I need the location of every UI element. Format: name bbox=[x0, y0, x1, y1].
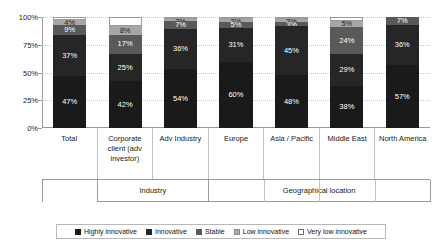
bar-segment[interactable]: 36% bbox=[164, 29, 197, 69]
legend-item[interactable]: Innovative bbox=[146, 228, 187, 235]
bar-segment-label: 31% bbox=[228, 41, 243, 49]
bar-segment[interactable]: 45% bbox=[275, 26, 308, 76]
legend-item[interactable]: Highly innovative bbox=[75, 228, 137, 235]
bar-segment[interactable]: 47% bbox=[53, 76, 86, 128]
bar-segment[interactable]: 9% bbox=[53, 25, 86, 35]
bar-segment[interactable] bbox=[109, 17, 142, 26]
bar-segment-label: 7% bbox=[175, 21, 186, 29]
x-axis-category-label: Total bbox=[44, 134, 95, 179]
bar-segment-label: 60% bbox=[228, 91, 243, 99]
y-axis-tick-mark bbox=[38, 100, 42, 101]
group-divider bbox=[97, 180, 98, 202]
bar-segment[interactable]: 60% bbox=[219, 62, 252, 128]
x-axis-categories: TotalCorporate client (adv investor)Adv … bbox=[42, 128, 430, 180]
legend-item[interactable]: Low innovative bbox=[234, 228, 289, 235]
legend-label: Innovative bbox=[155, 228, 187, 235]
legend-swatch-icon bbox=[298, 229, 304, 235]
stacked-bar[interactable]: 8%17%25%42% bbox=[109, 17, 142, 128]
x-axis-groups: IndustryGeographical location bbox=[42, 180, 430, 202]
bar-segment-label: 9% bbox=[64, 26, 75, 34]
group-divider bbox=[42, 180, 43, 202]
y-axis: 0%25%50%75%100% bbox=[0, 17, 38, 128]
x-axis-category-label: Europe bbox=[210, 134, 261, 179]
chart-legend: Highly innovativeInnovativeStableLow inn… bbox=[56, 224, 386, 239]
group-tick bbox=[264, 180, 265, 202]
stacked-bar[interactable]: 3%3%45%48% bbox=[275, 17, 308, 128]
group-divider bbox=[430, 180, 431, 202]
x-axis-category-label: Corporate client (adv investor) bbox=[99, 134, 150, 179]
bar-segment-label: 36% bbox=[395, 41, 410, 49]
bar-segment[interactable]: 7% bbox=[386, 17, 419, 25]
y-axis-tick-mark bbox=[38, 73, 42, 74]
y-axis-tick-label: 0% bbox=[27, 124, 38, 133]
group-tick bbox=[319, 180, 320, 202]
stacked-bar-chart: 0%25%50%75%100% 4%9%37%47%8%17%25%42%2%7… bbox=[0, 0, 441, 246]
legend-label: Very low innovative bbox=[307, 228, 367, 235]
legend-swatch-icon bbox=[75, 229, 81, 235]
bar-segment-label: 47% bbox=[62, 98, 77, 106]
bar-segment[interactable]: 24% bbox=[330, 27, 363, 54]
bar-segment[interactable]: 48% bbox=[275, 75, 308, 128]
bar-segment[interactable]: 31% bbox=[219, 28, 252, 62]
bar-slot: 5%24%29%38% bbox=[319, 17, 374, 128]
bar-segment-label: 24% bbox=[339, 37, 354, 45]
bar-segment[interactable]: 8% bbox=[109, 26, 142, 35]
bar-segment-label: 36% bbox=[173, 45, 188, 53]
group-tick bbox=[375, 180, 376, 202]
x-axis-category: Total bbox=[42, 128, 97, 179]
bar-segment[interactable]: 37% bbox=[53, 35, 86, 76]
x-axis-category: Corporate client (adv investor) bbox=[97, 128, 153, 179]
stacked-bar[interactable]: 7%36%57% bbox=[386, 17, 419, 128]
stacked-bar[interactable]: 2%7%36%54% bbox=[164, 17, 197, 128]
bar-segment[interactable]: 7% bbox=[164, 21, 197, 29]
x-axis-category: North America bbox=[374, 128, 430, 179]
x-axis-category: Asia / Pacific bbox=[263, 128, 319, 179]
bar-segment-label: 54% bbox=[173, 95, 188, 103]
x-axis-category-label: Middle East bbox=[322, 134, 373, 179]
bar-segment[interactable]: 36% bbox=[386, 25, 419, 65]
x-axis-group-label: Industry bbox=[140, 186, 167, 195]
bar-slot: 8%17%25%42% bbox=[97, 17, 152, 128]
x-axis-group: Industry bbox=[97, 180, 208, 202]
legend-label: Highly innovative bbox=[84, 228, 137, 235]
y-axis-tick-label: 25% bbox=[23, 96, 38, 105]
y-axis-tick-mark bbox=[38, 45, 42, 46]
bar-slot: 7%36%57% bbox=[375, 17, 430, 128]
bar-segment[interactable]: 57% bbox=[386, 65, 419, 128]
bar-segment-label: 57% bbox=[395, 93, 410, 101]
stacked-bar[interactable]: 5%24%29%38% bbox=[330, 17, 363, 128]
y-axis-tick-mark bbox=[38, 128, 42, 129]
x-axis-category-label: Asia / Pacific bbox=[266, 134, 317, 179]
y-axis-tick-label: 50% bbox=[23, 68, 38, 77]
bar-segment[interactable]: 42% bbox=[109, 81, 142, 128]
bar-slot: 4%9%37%47% bbox=[42, 17, 97, 128]
bar-segment[interactable]: 54% bbox=[164, 69, 197, 128]
bar-segment[interactable]: 25% bbox=[109, 54, 142, 82]
bar-segment-label: 37% bbox=[62, 52, 77, 60]
y-axis-tick-label: 75% bbox=[23, 40, 38, 49]
stacked-bar[interactable]: 3%5%31%60% bbox=[219, 17, 252, 128]
y-axis-tick-label: 100% bbox=[19, 13, 38, 22]
x-axis-category-label: North America bbox=[377, 134, 428, 179]
bar-segment[interactable]: 17% bbox=[109, 35, 142, 54]
bar-segment-label: 45% bbox=[284, 47, 299, 55]
legend-item[interactable]: Stable bbox=[196, 228, 225, 235]
x-axis-category: Europe bbox=[208, 128, 264, 179]
bar-segment-label: 17% bbox=[118, 40, 133, 48]
bar-segment-label: 48% bbox=[284, 98, 299, 106]
bar-segment-label: 42% bbox=[118, 101, 133, 109]
legend-swatch-icon bbox=[146, 229, 152, 235]
group-divider bbox=[208, 180, 209, 202]
x-axis-category: Adv Industry bbox=[152, 128, 208, 179]
bar-segment[interactable]: 29% bbox=[330, 54, 363, 86]
bar-segment-label: 25% bbox=[118, 64, 133, 72]
bar-slot: 3%3%45%48% bbox=[264, 17, 319, 128]
x-axis-category-label: Adv Industry bbox=[155, 134, 206, 179]
legend-item[interactable]: Very low innovative bbox=[298, 228, 367, 235]
bar-segment[interactable]: 38% bbox=[330, 86, 363, 128]
stacked-bar[interactable]: 4%9%37%47% bbox=[53, 17, 86, 128]
legend-label: Low innovative bbox=[243, 228, 289, 235]
bar-segment-label: 38% bbox=[339, 103, 354, 111]
legend-swatch-icon bbox=[234, 229, 240, 235]
bar-segment-label: 29% bbox=[339, 66, 354, 74]
